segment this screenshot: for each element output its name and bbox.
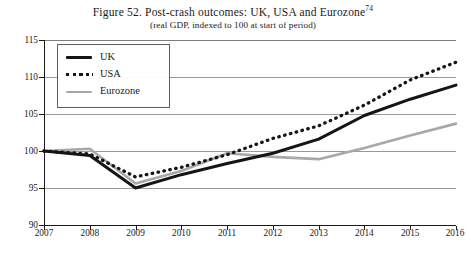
figure-subtitle: (real GDP, indexed to 100 at start of pe… bbox=[0, 20, 466, 30]
legend-entry-uk: UK bbox=[65, 49, 115, 65]
y-tick-label-100: 100 bbox=[8, 147, 38, 156]
y-tick-label-105: 105 bbox=[8, 110, 38, 119]
legend-label-eurozone: Eurozone bbox=[100, 86, 140, 96]
y-tick-label-95: 95 bbox=[8, 184, 38, 193]
legend-swatch-usa-icon bbox=[65, 68, 93, 80]
figure-title-text: Figure 52. Post-crash outcomes: UK, USA … bbox=[93, 6, 366, 18]
chart-legend: UK USA Eurozone bbox=[57, 44, 170, 108]
x-tick-label-2012: 2012 bbox=[250, 229, 296, 238]
y-tick-label-110: 110 bbox=[8, 73, 38, 82]
x-tick-label-2014: 2014 bbox=[341, 229, 387, 238]
x-tick-label-2009: 2009 bbox=[113, 229, 159, 238]
x-tick-label-2008: 2008 bbox=[67, 229, 113, 238]
legend-entry-eurozone: Eurozone bbox=[65, 83, 140, 99]
legend-label-uk: UK bbox=[100, 52, 115, 62]
x-tick-label-2013: 2013 bbox=[296, 229, 342, 238]
figure-container: Figure 52. Post-crash outcomes: UK, USA … bbox=[0, 0, 466, 262]
x-tick-label-2016: 2016 bbox=[432, 229, 466, 238]
series-line-eurozone bbox=[44, 124, 456, 184]
figure-title: Figure 52. Post-crash outcomes: UK, USA … bbox=[0, 4, 466, 18]
x-tick-label-2010: 2010 bbox=[158, 229, 204, 238]
x-tick-label-2007: 2007 bbox=[21, 229, 67, 238]
legend-swatch-uk-icon bbox=[65, 51, 93, 63]
legend-swatch-eurozone-icon bbox=[65, 85, 93, 97]
x-tick-label-2015: 2015 bbox=[387, 229, 433, 238]
figure-title-footnote: 74 bbox=[365, 4, 373, 13]
legend-entry-usa: USA bbox=[65, 66, 121, 82]
legend-label-usa: USA bbox=[100, 69, 121, 79]
x-tick-label-2011: 2011 bbox=[204, 229, 250, 238]
y-tick-label-115: 115 bbox=[8, 36, 38, 45]
x-axis-line bbox=[44, 225, 456, 226]
